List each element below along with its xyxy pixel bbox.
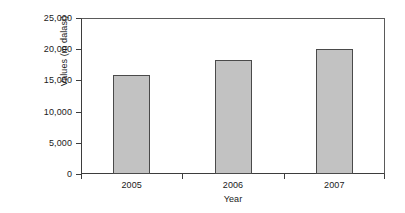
y-axis-tick-label: 15,000 xyxy=(28,75,72,85)
bar-chart: Values (m dalasi) 05,00010,00015,00020,0… xyxy=(0,0,405,213)
x-axis-tick-label: 2005 xyxy=(107,179,157,191)
bar xyxy=(316,49,353,174)
y-axis-tick-label: 5,000 xyxy=(28,138,72,148)
bars-group xyxy=(81,18,385,174)
x-axis-tick-labels: 200520062007 xyxy=(81,179,385,193)
y-axis-tick-label: 25,000 xyxy=(28,13,72,23)
y-axis-tick-labels: 05,00010,00015,00020,00025,000 xyxy=(28,0,72,213)
bar xyxy=(113,75,150,174)
x-axis-title: Year xyxy=(81,193,385,205)
x-axis-tick-label: 2006 xyxy=(208,179,258,191)
y-axis-tick-label: 0 xyxy=(28,169,72,179)
bar xyxy=(215,60,252,174)
x-axis-tick-label: 2007 xyxy=(309,179,359,191)
y-axis-tick-label: 20,000 xyxy=(28,44,72,54)
y-axis-tick-label: 10,000 xyxy=(28,107,72,117)
